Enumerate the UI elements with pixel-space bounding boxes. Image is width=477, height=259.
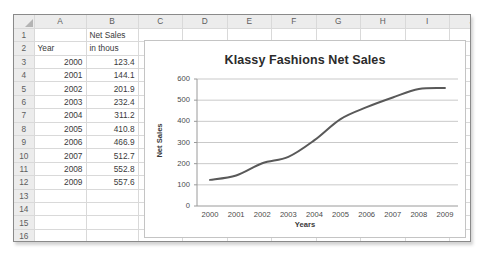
row-header-7[interactable]: 7 — [14, 109, 34, 122]
cell-a14[interactable] — [34, 202, 86, 215]
spreadsheet-window[interactable]: ABCDEFGHIJ1Net Sales2Yearin thous3200012… — [13, 14, 471, 242]
row-header-1[interactable]: 1 — [14, 28, 34, 41]
cell-a8[interactable]: 2005 — [34, 122, 86, 135]
row-header-12[interactable]: 12 — [14, 176, 34, 189]
column-header-e[interactable]: E — [227, 15, 272, 28]
row-header-15[interactable]: 15 — [14, 216, 34, 229]
cell-b13[interactable] — [86, 189, 138, 202]
cell-b12[interactable]: 557.6 — [86, 176, 138, 189]
column-header-b[interactable]: B — [86, 15, 138, 28]
row-header-14[interactable]: 14 — [14, 202, 34, 215]
chart-plot-wrap: Net Sales Years 0100200300400500600 2000… — [145, 41, 465, 237]
row-header-9[interactable]: 9 — [14, 136, 34, 149]
row-header-8[interactable]: 8 — [14, 122, 34, 135]
row-header-3[interactable]: 3 — [14, 55, 34, 68]
cell-b10[interactable]: 512.7 — [86, 149, 138, 162]
column-header-h[interactable]: H — [361, 15, 406, 28]
cell-a10[interactable]: 2007 — [34, 149, 86, 162]
cell-b4[interactable]: 144.1 — [86, 69, 138, 82]
select-all-icon[interactable] — [14, 15, 34, 28]
spreadsheet-screenshot: ABCDEFGHIJ1Net Sales2Yearin thous3200012… — [0, 0, 477, 259]
cell-b2[interactable]: in thous — [86, 42, 138, 55]
row-header-5[interactable]: 5 — [14, 82, 34, 95]
cell-b7[interactable]: 311.2 — [86, 109, 138, 122]
column-header-f[interactable]: F — [272, 15, 317, 28]
column-header-row: ABCDEFGHIJ — [14, 15, 471, 28]
cell-a9[interactable]: 2006 — [34, 136, 86, 149]
cell-a5[interactable]: 2002 — [34, 82, 86, 95]
cell-b16[interactable] — [86, 229, 138, 242]
cell-a16[interactable] — [34, 229, 86, 242]
cell-a2[interactable]: Year — [34, 42, 86, 55]
row-header-2[interactable]: 2 — [14, 42, 34, 55]
row-header-4[interactable]: 4 — [14, 69, 34, 82]
chart-plot-area — [145, 41, 467, 239]
column-header-d[interactable]: D — [183, 15, 228, 28]
cell-b6[interactable]: 232.4 — [86, 95, 138, 108]
row-header-6[interactable]: 6 — [14, 95, 34, 108]
cell-b1[interactable]: Net Sales — [86, 28, 138, 41]
cell-a11[interactable]: 2008 — [34, 162, 86, 175]
column-header-c[interactable]: C — [138, 15, 183, 28]
cell-b5[interactable]: 201.9 — [86, 82, 138, 95]
cell-a7[interactable]: 2004 — [34, 109, 86, 122]
cell-a15[interactable] — [34, 216, 86, 229]
cell-a12[interactable]: 2009 — [34, 176, 86, 189]
column-header-i[interactable]: I — [405, 15, 450, 28]
row-header-10[interactable]: 10 — [14, 149, 34, 162]
cell-b3[interactable]: 123.4 — [86, 55, 138, 68]
column-header-a[interactable]: A — [34, 15, 86, 28]
row-header-16[interactable]: 16 — [14, 229, 34, 242]
embedded-chart-object[interactable]: Klassy Fashions Net Sales Net Sales Year… — [144, 40, 466, 238]
cell-b15[interactable] — [86, 216, 138, 229]
row-header-11[interactable]: 11 — [14, 162, 34, 175]
select-all-triangle-icon — [25, 19, 33, 27]
cell-b11[interactable]: 552.8 — [86, 162, 138, 175]
cell-a4[interactable]: 2001 — [34, 69, 86, 82]
cell-b8[interactable]: 410.8 — [86, 122, 138, 135]
cell-b14[interactable] — [86, 202, 138, 215]
cell-a13[interactable] — [34, 189, 86, 202]
row-header-13[interactable]: 13 — [14, 189, 34, 202]
cell-b9[interactable]: 466.9 — [86, 136, 138, 149]
cell-a1[interactable] — [34, 28, 86, 41]
column-header-j[interactable]: J — [450, 15, 472, 28]
cell-a6[interactable]: 2003 — [34, 95, 86, 108]
cell-a3[interactable]: 2000 — [34, 55, 86, 68]
column-header-g[interactable]: G — [316, 15, 361, 28]
